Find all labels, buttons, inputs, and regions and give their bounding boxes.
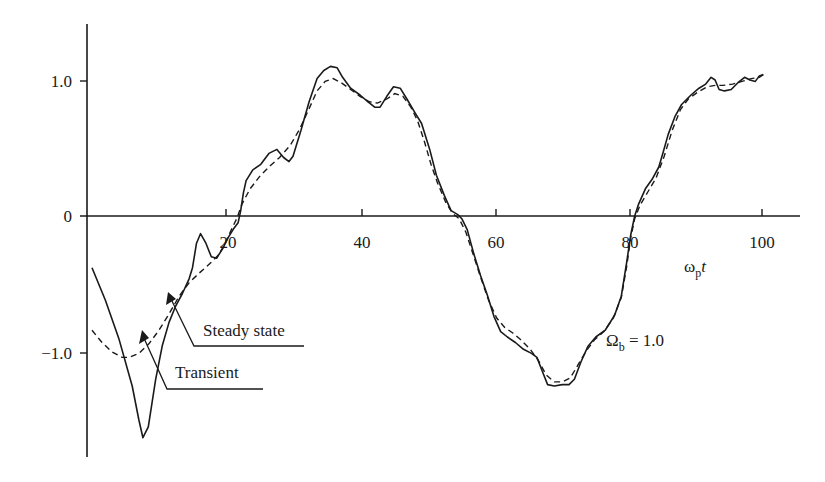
x-tick-label-100: 100: [749, 233, 775, 252]
arrowhead-icon: [139, 330, 149, 344]
y-tick-label-0: 0: [64, 207, 73, 226]
transient-label: Transient: [175, 363, 239, 382]
steady-state-callout: Steady state: [166, 292, 304, 346]
omega-b-label: Ωb = 1.0: [606, 331, 664, 354]
y-tick-label-minus-1: −1.0: [41, 344, 72, 363]
x-tick-label-60: 60: [488, 233, 505, 252]
x-ticks: [226, 209, 762, 216]
transient-curve: [92, 66, 763, 437]
y-tick-label-1: 1.0: [51, 72, 72, 91]
x-axis-label: ωpt: [684, 257, 707, 280]
chart-canvas: 1.0 0 −1.0 20 40 60 80 100 ωpt Steady st…: [0, 0, 825, 482]
steady-state-label: Steady state: [203, 321, 285, 340]
x-tick-label-40: 40: [354, 233, 371, 252]
